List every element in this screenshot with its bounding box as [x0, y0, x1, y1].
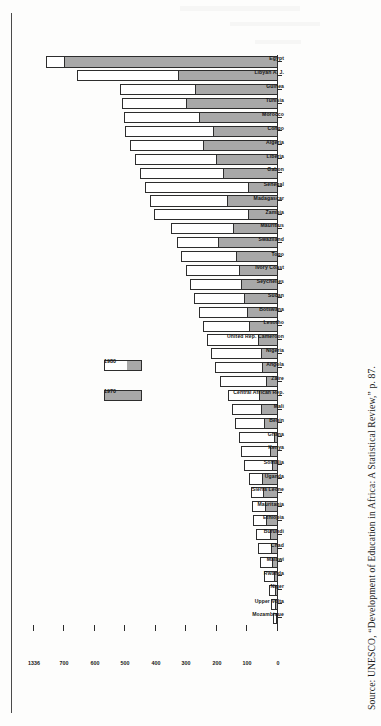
value-axis-tick: [246, 625, 247, 631]
value-axis-tick: [33, 625, 34, 631]
category-label-text: Zambia: [266, 208, 284, 214]
category-label-text: Morocco: [262, 111, 284, 117]
category-tick: [278, 450, 282, 451]
bar-segment-1970: [64, 56, 278, 67]
value-axis-tick: [277, 625, 278, 631]
legend-label-1980: 1980: [104, 358, 116, 364]
value-axis-tick-label-text: 0: [277, 660, 280, 666]
category-label-text: Sierra Leone: [252, 486, 284, 492]
value-axis-tick: [155, 625, 156, 631]
value-axis-tick: [185, 625, 186, 631]
category-label-text: Sudan: [268, 292, 284, 298]
category-label-text: Kenya: [268, 445, 284, 451]
category-label-text: Benin: [269, 417, 284, 423]
value-axis-tick-label-text: 1336: [28, 660, 40, 666]
value-axis-tick-label-text: 600: [90, 660, 99, 666]
value-axis-tick: [94, 625, 95, 631]
category-label-text: Algeria: [266, 139, 284, 145]
category-label-text: Swaziland: [258, 236, 284, 242]
category-label-text: Zaire: [271, 375, 284, 381]
category-label-text: Mali: [274, 403, 284, 409]
page-left-rule: [11, 13, 12, 713]
legend-label-1970: 1970: [104, 388, 116, 394]
category-label-text: Ethiopia: [263, 514, 284, 520]
category-label-text: Madagascar: [254, 194, 284, 200]
category-label-text: United Rep. Cameroon: [227, 333, 284, 339]
category-label-text: Togo: [272, 250, 284, 256]
category-label-text: Somalia: [264, 459, 284, 465]
value-axis-tick-label-text: 400: [151, 660, 160, 666]
category-label-text: Uganda: [265, 472, 284, 478]
category-label-text: Gabon: [267, 167, 284, 173]
category-label-text: Upper Volta: [255, 598, 284, 604]
value-axis-tick: [216, 625, 217, 631]
value-axis-tick-label-text: 300: [182, 660, 191, 666]
category-label-text: Mauritius: [260, 222, 284, 228]
category-label-text: Lesotho: [263, 320, 284, 326]
category-label-text: Angola: [266, 361, 284, 367]
category-label-text: Nigeria: [266, 347, 284, 353]
category-label-text: Tunisia: [266, 97, 284, 103]
category-label-text: Egypt: [269, 55, 284, 61]
rotated-chart-wrapper: 01002003004005006007001336 MozambiqueUpp…: [40, 33, 340, 693]
category-label-text: Ivory Coast: [255, 264, 284, 270]
figure-page: 01002003004005006007001336 MozambiqueUpp…: [0, 0, 381, 726]
category-label-text: Burundi: [264, 528, 284, 534]
category-label-text: Central African Rep.: [233, 389, 284, 395]
category-label-text: Libyan A. J.: [254, 69, 284, 75]
category-label-text: Chad: [271, 542, 284, 548]
category-label-text: Rwanda: [264, 570, 284, 576]
category-tick: [278, 339, 282, 340]
value-axis-tick-label-text: 700: [60, 660, 69, 666]
category-tick: [278, 353, 282, 354]
category-tick: [278, 534, 282, 535]
legend-item-1980: 1980: [104, 347, 144, 371]
category-label-text: Mauritania: [258, 500, 284, 506]
value-axis-tick-label-text: 100: [243, 660, 252, 666]
legend: 1970 1980: [104, 327, 144, 401]
bar-chart-plot: 01002003004005006007001336 MozambiqueUpp…: [40, 33, 340, 693]
category-label-text: Congo: [267, 125, 284, 131]
category-label-text: Senegal: [264, 181, 284, 187]
value-axis-tick: [63, 625, 64, 631]
category-label-text: Guinea: [266, 83, 284, 89]
category-label-text: Malawi: [267, 556, 284, 562]
category-tick: [278, 492, 282, 493]
category-label-text: Liberia: [267, 153, 284, 159]
value-axis-tick-label-text: 200: [213, 660, 222, 666]
category-label-text: Ghana: [268, 431, 284, 437]
category-tick: [278, 617, 282, 618]
category-label-text: Seychelles: [257, 278, 284, 284]
category-label-text: Botswana: [259, 306, 284, 312]
value-axis-tick: [124, 625, 125, 631]
legend-item-1970: 1970: [104, 377, 144, 401]
source-caption: Source: UNESCO, “Development of Educatio…: [366, 366, 377, 710]
value-axis-tick-label-text: 500: [121, 660, 130, 666]
bar-segment-1970: [186, 98, 278, 109]
category-label-text: Niger: [270, 584, 284, 590]
category-label-text: Mozambique: [252, 612, 284, 618]
